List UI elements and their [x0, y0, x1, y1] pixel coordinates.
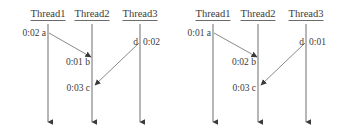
- event-label-d-time: 0:02: [143, 37, 160, 48]
- message-arrow-a-to-b: [49, 33, 91, 57]
- message-arrow-d-to-c: [261, 43, 305, 85]
- event-label-c: 0:03 c: [67, 83, 90, 94]
- diagram-right: Thread1 Thread2 Thread3 0:01 a 0:02 b 0:…: [170, 0, 340, 134]
- thread-header-thread3: Thread3: [289, 8, 324, 21]
- event-label-d-name: d: [299, 37, 304, 48]
- thread-header-thread2: Thread2: [241, 8, 276, 21]
- message-arrow-d-to-c: [95, 43, 139, 85]
- event-label-a: 0:02 a: [23, 28, 46, 39]
- event-label-b: 0:02 b: [232, 57, 256, 68]
- event-label-d-name: d: [133, 37, 138, 48]
- event-label-b: 0:01 b: [66, 57, 90, 68]
- event-label-a: 0:01 a: [188, 28, 211, 39]
- diagram-left: Thread1 Thread2 Thread3 0:02 a 0:01 b 0:…: [0, 0, 170, 134]
- message-arrow-a-to-b: [214, 33, 257, 57]
- event-label-d-time: 0:01: [309, 37, 326, 48]
- thread-header-thread3: Thread3: [123, 8, 158, 21]
- event-label-c: 0:03 c: [233, 83, 256, 94]
- thread-header-thread1: Thread1: [31, 8, 66, 21]
- thread-diagram-figure: Thread1 Thread2 Thread3 0:02 a 0:01 b 0:…: [0, 0, 340, 134]
- thread-header-thread1: Thread1: [196, 8, 231, 21]
- thread-header-thread2: Thread2: [75, 8, 110, 21]
